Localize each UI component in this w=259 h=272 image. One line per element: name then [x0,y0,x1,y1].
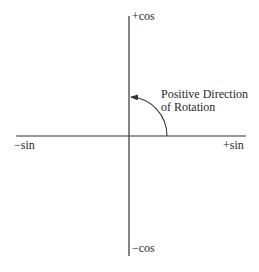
positive-sin-label: +sin [223,139,244,152]
negative-sin-label: −sin [14,139,35,152]
rotation-annotation-line2: of Rotation [161,101,248,114]
positive-cos-label: +cos [132,10,155,23]
negative-cos-label: −cos [132,242,155,255]
rotation-diagram: +cos −cos −sin +sin Positive Direction o… [0,0,259,272]
rotation-annotation: Positive Direction of Rotation [161,88,248,114]
diagram-canvas [0,0,259,272]
